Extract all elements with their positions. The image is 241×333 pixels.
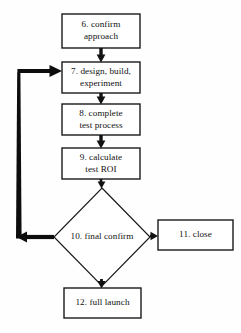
flowchart-graphics <box>0 0 241 333</box>
edge-10-to-7-feedback <box>16 65 62 243</box>
node-step7-shape[interactable] <box>62 62 140 93</box>
flowchart-canvas: 6. confirm approach 7. design, build, ex… <box>0 0 241 333</box>
node-step6-shape[interactable] <box>62 14 140 48</box>
edge-6-to-7 <box>97 48 106 63</box>
edge-10-to-11 <box>150 232 158 240</box>
edge-7-to-8 <box>97 93 106 105</box>
node-step8-shape[interactable] <box>62 104 140 135</box>
node-step11-shape[interactable] <box>158 220 233 250</box>
edge-9-to-10 <box>98 179 106 189</box>
node-step10-shape[interactable] <box>54 188 150 286</box>
node-step9-shape[interactable] <box>62 148 140 179</box>
node-step12-shape[interactable] <box>64 288 141 318</box>
edge-8-to-9 <box>97 135 106 149</box>
